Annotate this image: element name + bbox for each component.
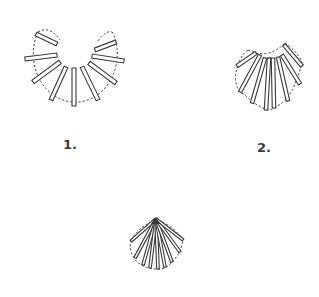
rod <box>88 61 117 84</box>
rod <box>92 54 125 63</box>
figure-2-narrow-fan <box>235 43 303 110</box>
rod <box>25 53 57 61</box>
rod <box>32 60 61 83</box>
figure-2-label: 2. <box>257 140 271 155</box>
rod <box>271 58 275 108</box>
rod <box>35 32 58 46</box>
rod <box>264 58 270 110</box>
figure-3-closed-fan <box>130 218 184 269</box>
rod <box>94 40 116 52</box>
figure-1-label: 1. <box>63 137 77 152</box>
rod <box>49 66 68 101</box>
rod <box>72 68 76 106</box>
figure-1-wide-fan <box>25 30 125 106</box>
diagram-canvas <box>0 0 319 297</box>
dashed-outline <box>97 32 113 42</box>
